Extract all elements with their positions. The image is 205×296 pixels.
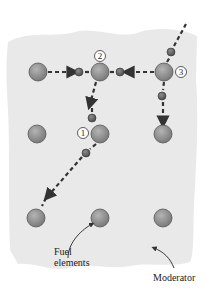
event-number-2: 2 <box>96 50 104 62</box>
fuel-label-line2: elements <box>54 257 90 269</box>
event-number-3: 3 <box>177 66 185 78</box>
moderator-label: Moderator <box>153 272 195 284</box>
chain-reaction-diagram <box>0 0 205 296</box>
event-number-1: 1 <box>79 127 87 139</box>
